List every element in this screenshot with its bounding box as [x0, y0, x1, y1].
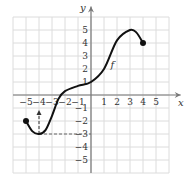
- y-tick-label: 5: [82, 25, 88, 35]
- x-tick-label: 1: [101, 97, 107, 107]
- x-tick-label: 2: [114, 97, 120, 107]
- function-label: f: [110, 59, 117, 70]
- y-tick-label: −1: [75, 103, 88, 113]
- y-tick-label: 2: [82, 64, 88, 74]
- endpoint-dot: [23, 118, 29, 124]
- y-axis-label: y: [79, 2, 86, 13]
- x-tick-label: 3: [127, 97, 133, 107]
- x-tick-label: 4: [140, 97, 146, 107]
- y-tick-label: 4: [82, 38, 88, 48]
- y-tick-label: −2: [75, 116, 88, 126]
- y-tick-label: 3: [82, 51, 88, 61]
- arrow-up-icon: [37, 110, 42, 115]
- x-tick-label: 5: [153, 97, 159, 107]
- endpoint-dot: [140, 40, 146, 46]
- graph-canvas: xy−5−4−3−2−112345−5−4−3−2−112345f: [0, 0, 190, 187]
- function-graph: xy−5−4−3−2−112345−5−4−3−2−112345f: [0, 0, 190, 187]
- x-axis-label: x: [178, 97, 184, 108]
- x-tick-label: −4: [32, 97, 46, 107]
- x-tick-label: −5: [19, 97, 33, 107]
- x-tick-label: −2: [58, 97, 71, 107]
- y-tick-label: −5: [75, 155, 89, 165]
- y-tick-label: −4: [75, 142, 89, 152]
